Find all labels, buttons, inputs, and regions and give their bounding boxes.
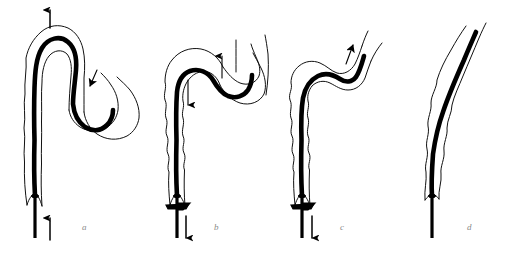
panel-a-organ-wall-inner xyxy=(41,51,71,206)
panel-c-tip-advance-arrow xyxy=(346,45,353,64)
anatomical-diagram-svg xyxy=(0,0,517,256)
panel-c-distal-limb-left xyxy=(362,31,368,46)
panel-c-entry-hub xyxy=(298,194,305,197)
panel-label-a: a xyxy=(82,223,87,232)
panel-b-distal-loop-upper xyxy=(223,44,260,84)
panel-c-catheter xyxy=(301,56,364,196)
figure-container: a b c d xyxy=(0,0,517,256)
panel-c-group xyxy=(290,31,382,238)
panel-c-distal-limb-right xyxy=(371,43,382,61)
panel-d-group xyxy=(425,23,486,238)
panel-d-entry-hub xyxy=(428,194,435,197)
panel-b-entry-hub xyxy=(173,194,180,197)
panel-c-organ-wall-inner xyxy=(307,61,371,206)
panel-label-d: d xyxy=(467,223,472,232)
panel-d-organ-wall-right xyxy=(439,23,486,199)
panel-d-catheter xyxy=(432,32,476,196)
panel-a-lumen-flow-arrow xyxy=(90,70,97,86)
panel-a-group xyxy=(24,10,139,240)
panel-a-entry-hub xyxy=(31,194,38,197)
panel-label-b: b xyxy=(214,223,219,232)
panel-b-group xyxy=(164,35,268,238)
panel-label-c: c xyxy=(340,223,344,232)
